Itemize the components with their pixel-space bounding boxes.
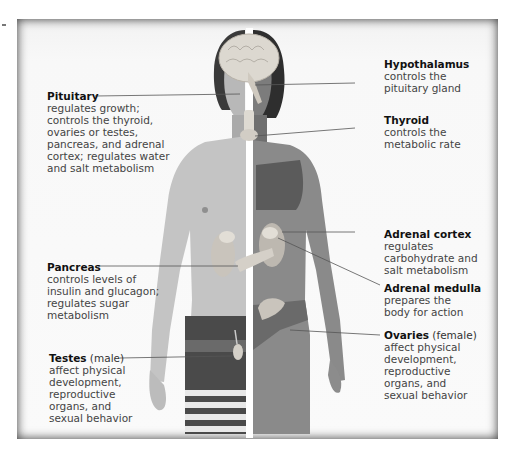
label-description: controls the metabolic rate bbox=[384, 126, 461, 150]
label-hypothalamus: Hypothalamus controls the pituitary glan… bbox=[384, 58, 469, 94]
label-title: Ovaries bbox=[384, 329, 429, 341]
label-pancreas: Pancreas controls levels of insulin and … bbox=[47, 261, 159, 321]
label-title: Thyroid bbox=[384, 114, 429, 126]
label-title: Adrenal medulla bbox=[384, 282, 481, 294]
label-title: Pituitary bbox=[47, 90, 99, 102]
label-pituitary: Pituitary regulates growth; controls the… bbox=[47, 90, 170, 174]
label-description: affect physical development, reproductiv… bbox=[49, 364, 132, 424]
label-testes: Testes (male) affect physical developmen… bbox=[49, 352, 132, 424]
label-title: Pancreas bbox=[47, 261, 101, 273]
label-thyroid: Thyroid controls the metabolic rate bbox=[384, 114, 461, 150]
label-qualifier: (male) bbox=[87, 352, 125, 364]
label-description: regulates growth; controls the thyroid, … bbox=[47, 102, 170, 174]
label-description: affect physical development, reproductiv… bbox=[384, 341, 477, 401]
label-title: Adrenal cortex bbox=[384, 228, 471, 240]
label-description: prepares the body for action bbox=[384, 294, 481, 318]
label-title: Testes bbox=[49, 352, 87, 364]
label-title: Hypothalamus bbox=[384, 58, 469, 70]
label-ovaries: Ovaries (female) affect physical develop… bbox=[384, 329, 477, 401]
label-description: controls the pituitary gland bbox=[384, 70, 469, 94]
label-qualifier: (female) bbox=[429, 329, 477, 341]
label-description: controls levels of insulin and glucagon;… bbox=[47, 273, 159, 321]
label-description: regulates carbohydrate and salt metaboli… bbox=[384, 240, 478, 276]
label-adrenal-cortex: Adrenal cortex regulates carbohydrate an… bbox=[384, 228, 478, 276]
label-adrenal-medulla: Adrenal medulla prepares the body for ac… bbox=[384, 282, 481, 318]
